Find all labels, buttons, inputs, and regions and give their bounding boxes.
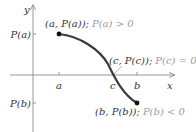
- point-a-condition: P(a) > 0: [91, 18, 134, 29]
- point-a-annotation: (a, P(a));P(a) > 0: [45, 18, 134, 29]
- point-c-condition: P(c) = 0: [154, 55, 196, 66]
- y-tick-label-pb: P(b): [9, 98, 31, 109]
- y-tick-pa: P(a): [10, 29, 37, 40]
- point-a-coord: (a, P(a));: [45, 18, 89, 29]
- y-axis-label: y: [23, 4, 30, 15]
- x-tick-label-b: b: [134, 80, 140, 91]
- point-b-annotation: (b, P(b));P(b) < 0: [95, 106, 186, 117]
- x-axis-label: x: [167, 80, 173, 91]
- point-c-annotation: (c, P(c));P(c) = 0: [109, 55, 196, 66]
- x-tick-label-a: a: [56, 80, 62, 91]
- y-tick-label-pa: P(a): [10, 29, 32, 40]
- point-b-coord: (b, P(b));: [95, 106, 140, 117]
- point-c-leader-line: [114, 66, 122, 74]
- intermediate-value-diagram: y x a c b P(a) P(b) (a, P(a));P(a) > 0 (…: [0, 0, 196, 132]
- x-tick-c: c: [110, 80, 116, 91]
- point-a-marker-icon: [57, 32, 62, 37]
- y-tick-pb: P(b): [9, 98, 36, 109]
- y-axis: y: [23, 4, 36, 132]
- point-c-coord: (c, P(c));: [109, 55, 152, 66]
- function-curve: [59, 34, 137, 103]
- x-tick-label-c: c: [110, 80, 116, 91]
- x-axis: x: [10, 73, 175, 92]
- point-b-marker-icon: [135, 101, 140, 106]
- point-b-condition: P(b) < 0: [142, 106, 186, 117]
